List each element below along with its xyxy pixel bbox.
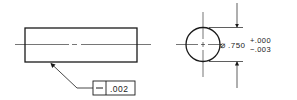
- diameter-value: .750: [228, 41, 246, 50]
- tolerance-value: .002: [110, 84, 129, 94]
- cylinder-outline: [25, 28, 137, 62]
- leader-line: [51, 64, 93, 89]
- feature-control-frame: .002: [93, 81, 135, 95]
- technical-drawing: .002 ⌀ .750 +.000 −.003: [0, 0, 297, 100]
- end-centerlines: [176, 12, 222, 77]
- diameter-symbol: ⌀: [220, 40, 226, 50]
- side-view: .002: [15, 28, 151, 95]
- lower-tolerance: −.003: [250, 45, 271, 54]
- upper-tolerance: +.000: [250, 36, 271, 45]
- diameter-dimension: ⌀ .750 +.000 −.003: [220, 36, 271, 54]
- end-view: ⌀ .750 +.000 −.003: [176, 3, 271, 88]
